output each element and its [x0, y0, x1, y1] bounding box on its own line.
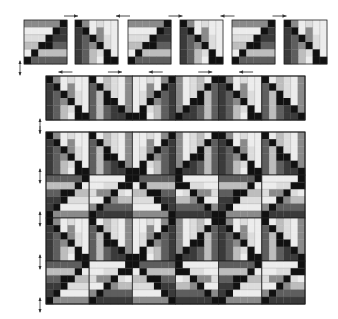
up-down-arrow-icon — [39, 297, 42, 313]
row-block-5 — [232, 20, 275, 64]
quilt-block-r2-c2 — [89, 175, 132, 218]
quilt-block-r2-c4 — [176, 175, 219, 218]
quilt-block-r4-c6 — [262, 261, 305, 304]
strip-block-4 — [176, 76, 219, 120]
quilt-block-r2-c5 — [219, 175, 262, 218]
arrow-left-icon — [58, 70, 72, 74]
row-block-6 — [284, 20, 327, 64]
row-of-blocks — [24, 20, 327, 64]
quilt-block-r1-c4 — [176, 132, 219, 175]
arrow-right-icon — [64, 14, 78, 18]
strip-block-6 — [262, 76, 305, 120]
up-down-arrow-icon — [39, 254, 42, 270]
row-block-1 — [24, 20, 67, 64]
arrow-left-icon — [116, 14, 130, 18]
quilt-block-r4-c3 — [132, 261, 175, 304]
arrow-right-icon — [273, 14, 287, 18]
quilt-block-r2-c3 — [132, 175, 175, 218]
up-down-arrow-icon — [39, 168, 42, 184]
quilt-block-r4-c4 — [176, 261, 219, 304]
quilt-block-r4-c1 — [46, 261, 89, 304]
quilt-block-r4-c2 — [89, 261, 132, 304]
quilt-block-r1-c6 — [262, 132, 305, 175]
up-down-arrow-icon — [39, 211, 42, 227]
row-block-2 — [75, 20, 118, 64]
row-down-arrow-icon — [19, 60, 22, 76]
quilt-block-r2-c1 — [46, 175, 89, 218]
quilt-block-r4-c5 — [219, 261, 262, 304]
strip-block-5 — [219, 76, 262, 120]
row-block-3 — [128, 20, 171, 64]
arrow-left-icon — [239, 70, 253, 74]
up-down-arrow-icon — [19, 60, 22, 76]
quilt-block-r3-c1 — [46, 218, 89, 261]
quilt-block-r2-c6 — [262, 175, 305, 218]
strip-block-2 — [89, 76, 132, 120]
strip-press-arrows — [58, 70, 253, 74]
quilt-block-r1-c3 — [132, 132, 175, 175]
quilt-block-r1-c1 — [46, 132, 89, 175]
quilt-block-r3-c6 — [262, 218, 305, 261]
quilt-block-r3-c2 — [89, 218, 132, 261]
quilt-block-r3-c3 — [132, 218, 175, 261]
quilt-side-arrows — [39, 126, 42, 313]
quilt-block-r3-c5 — [219, 218, 262, 261]
quilt-block-r1-c2 — [89, 132, 132, 175]
arrow-right-icon — [198, 70, 212, 74]
arrow-left-icon — [221, 14, 235, 18]
row-block-4 — [180, 20, 223, 64]
quilt-block-r3-c4 — [176, 218, 219, 261]
strip-block-3 — [132, 76, 175, 120]
arrow-right-icon — [169, 14, 183, 18]
row-press-arrows — [64, 14, 287, 18]
arrow-left-icon — [149, 70, 163, 74]
sewn-strip — [46, 76, 305, 120]
quilt-diagram — [0, 0, 338, 319]
quilt-block-r1-c5 — [219, 132, 262, 175]
arrow-right-icon — [108, 70, 122, 74]
strip-block-1 — [46, 76, 89, 120]
quilt-top — [46, 132, 305, 304]
